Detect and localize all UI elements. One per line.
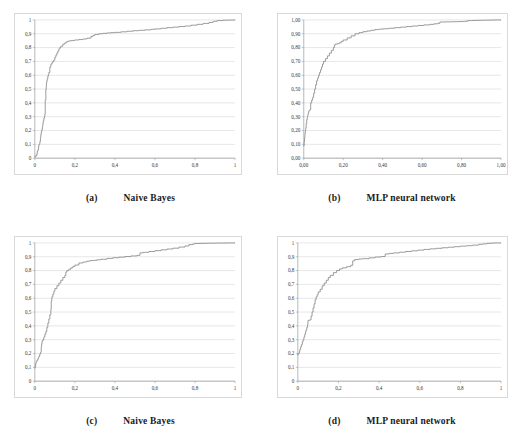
svg-text:0,8: 0,8 [25,44,32,50]
roc-curve-a [35,20,235,157]
svg-text:0: 0 [297,385,300,391]
svg-text:0,9: 0,9 [25,254,32,260]
svg-text:1: 1 [500,385,503,391]
svg-text:0,8: 0,8 [288,267,295,273]
caption-title-d: MLP neural network [367,416,456,426]
svg-text:1: 1 [292,240,295,246]
svg-text:0,6: 0,6 [25,295,32,301]
svg-text:0,5: 0,5 [25,86,32,92]
svg-text:0,2: 0,2 [288,350,295,356]
svg-text:0,4: 0,4 [25,100,32,106]
svg-text:0,90: 0,90 [291,31,300,37]
caption-tag-a: (a) [86,193,98,203]
svg-text:0,7: 0,7 [25,281,32,287]
svg-text:0,40: 0,40 [291,100,300,106]
svg-text:0,4: 0,4 [376,385,383,391]
svg-text:0,00: 0,00 [299,162,308,168]
roc-curve-b [304,20,501,146]
svg-text:0,80: 0,80 [457,162,466,168]
svg-text:1: 1 [234,162,237,168]
svg-text:0,4: 0,4 [112,385,119,391]
svg-text:0,1: 0,1 [25,364,32,370]
svg-text:0,4: 0,4 [288,323,295,329]
svg-text:0,20: 0,20 [291,127,300,133]
caption-a: (a)Naive Bayes [0,193,261,203]
svg-text:0,8: 0,8 [25,267,32,273]
figure-panel-grid: 00,10,20,30,40,50,60,70,80,9100,20,40,60… [0,0,523,446]
svg-text:0,6: 0,6 [152,385,159,391]
svg-text:0,1: 0,1 [25,141,32,147]
svg-text:1,00: 1,00 [291,17,300,23]
roc-chart-d[interactable]: 00,10,20,30,40,50,60,70,80,9100,20,40,60… [278,237,507,397]
svg-text:0,8: 0,8 [457,385,464,391]
chart-frame-a: 00,10,20,30,40,50,60,70,80,9100,20,40,60… [14,13,242,175]
caption-d: (d)MLP neural network [261,416,523,426]
roc-chart-c[interactable]: 00,10,20,30,40,50,60,70,80,9100,20,40,60… [15,237,241,397]
svg-text:0,5: 0,5 [288,309,295,315]
svg-text:0,00: 0,00 [291,155,300,161]
svg-text:0,50: 0,50 [291,86,300,92]
svg-text:0,2: 0,2 [25,127,32,133]
caption-title-a: Naive Bayes [124,193,176,203]
roc-chart-b[interactable]: 0,000,100,200,300,400,500,600,700,800,90… [278,14,507,174]
roc-curve-c [35,243,235,368]
svg-text:0: 0 [292,378,295,384]
panel-d: 00,10,20,30,40,50,60,70,80,9100,20,40,60… [261,223,523,446]
caption-c: (c)Naive Bayes [0,416,261,426]
caption-title-c: Naive Bayes [123,416,175,426]
svg-text:0: 0 [34,162,37,168]
svg-text:0,8: 0,8 [192,385,199,391]
svg-text:0,60: 0,60 [291,72,300,78]
svg-text:0,3: 0,3 [288,337,295,343]
svg-text:0,3: 0,3 [25,114,32,120]
svg-text:0,20: 0,20 [339,162,348,168]
svg-text:0,70: 0,70 [291,58,300,64]
svg-text:0,9: 0,9 [25,31,32,37]
svg-text:0,6: 0,6 [152,162,159,168]
svg-text:1: 1 [29,240,32,246]
svg-text:0,6: 0,6 [25,72,32,78]
chart-frame-d: 00,10,20,30,40,50,60,70,80,9100,20,40,60… [277,236,508,398]
caption-b: (b)MLP neural network [261,193,523,203]
svg-text:0,6: 0,6 [417,385,424,391]
svg-text:0,3: 0,3 [25,337,32,343]
caption-title-b: MLP neural network [367,193,456,203]
panel-c: 00,10,20,30,40,50,60,70,80,9100,20,40,60… [0,223,261,446]
svg-text:0,10: 0,10 [291,141,300,147]
svg-text:0,4: 0,4 [25,323,32,329]
roc-curve-d [298,243,501,355]
svg-text:0,2: 0,2 [72,162,79,168]
svg-text:0,4: 0,4 [112,162,119,168]
svg-text:0,7: 0,7 [288,281,295,287]
svg-text:0,60: 0,60 [418,162,427,168]
svg-text:0: 0 [29,378,32,384]
panel-b: 0,000,100,200,300,400,500,600,700,800,90… [261,0,523,223]
svg-text:0: 0 [34,385,37,391]
svg-text:0: 0 [29,155,32,161]
caption-tag-c: (c) [86,416,97,426]
svg-text:0,7: 0,7 [25,58,32,64]
chart-frame-b: 0,000,100,200,300,400,500,600,700,800,90… [277,13,508,175]
svg-text:0,5: 0,5 [25,309,32,315]
svg-text:0,2: 0,2 [335,385,342,391]
caption-tag-b: (b) [328,193,340,203]
svg-text:1: 1 [29,17,32,23]
svg-text:0,30: 0,30 [291,114,300,120]
svg-text:0,40: 0,40 [378,162,387,168]
roc-chart-a[interactable]: 00,10,20,30,40,50,60,70,80,9100,20,40,60… [15,14,241,174]
chart-frame-c: 00,10,20,30,40,50,60,70,80,9100,20,40,60… [14,236,242,398]
panel-a: 00,10,20,30,40,50,60,70,80,9100,20,40,60… [0,0,261,223]
svg-text:0,9: 0,9 [288,254,295,260]
svg-text:0,1: 0,1 [288,364,295,370]
svg-text:0,6: 0,6 [288,295,295,301]
svg-text:0,2: 0,2 [25,350,32,356]
caption-tag-d: (d) [328,416,340,426]
svg-text:0,8: 0,8 [192,162,199,168]
svg-text:0,80: 0,80 [291,44,300,50]
svg-text:0,2: 0,2 [72,385,79,391]
svg-text:1: 1 [234,385,237,391]
svg-text:1,00: 1,00 [497,162,506,168]
